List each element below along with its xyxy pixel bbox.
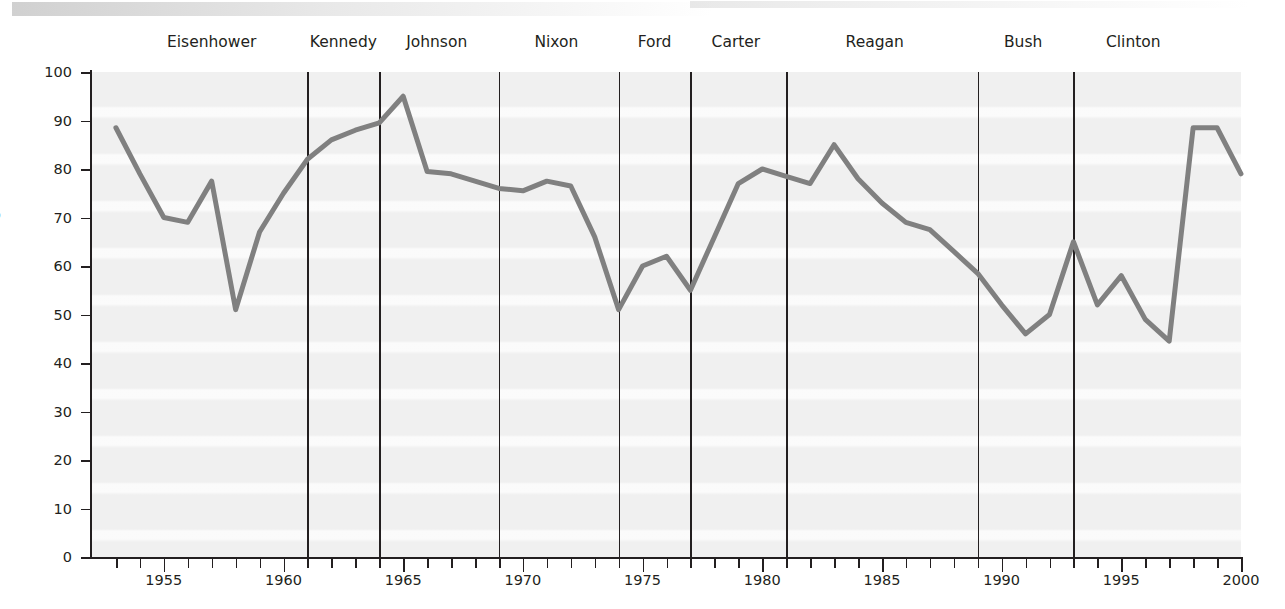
y-tick-0	[81, 557, 90, 559]
x-tick-1988	[954, 559, 956, 568]
chart-root: EisenhowerKennedyJohnsonNixonFordCarterR…	[0, 0, 1285, 609]
x-tick-1990	[1002, 559, 1004, 572]
y-tick-label-40: 40	[26, 355, 72, 371]
y-tick-label-70: 70	[26, 210, 72, 226]
x-tick-1963	[355, 559, 357, 568]
president-label-ford: Ford	[638, 33, 672, 51]
x-tick-1982	[810, 559, 812, 568]
x-tick-1995	[1121, 559, 1123, 572]
x-tick-1971	[547, 559, 549, 568]
x-tick-1989	[978, 559, 980, 568]
x-tick-1954	[140, 559, 142, 568]
x-tick-1973	[595, 559, 597, 568]
x-tick-1972	[571, 559, 573, 568]
x-tick-1968	[475, 559, 477, 568]
y-tick-label-10: 10	[26, 501, 72, 517]
x-tick-1984	[858, 559, 860, 568]
x-tick-1969	[499, 559, 501, 568]
x-tick-1964	[379, 559, 381, 568]
y-tick-80	[81, 169, 90, 171]
y-tick-label-20: 20	[26, 452, 72, 468]
x-tick-label-1955: 1955	[145, 572, 182, 588]
president-label-kennedy: Kennedy	[310, 33, 377, 51]
x-tick-1962	[331, 559, 333, 568]
y-tick-40	[81, 363, 90, 365]
y-tick-label-0: 0	[26, 549, 72, 565]
data-line-series	[92, 72, 1241, 557]
y-tick-60	[81, 266, 90, 268]
x-tick-label-1975: 1975	[624, 572, 661, 588]
x-tick-1999	[1217, 559, 1219, 568]
x-tick-1967	[451, 559, 453, 568]
x-tick-1970	[523, 559, 525, 572]
x-tick-label-1960: 1960	[265, 572, 302, 588]
scan-artifact-top-right	[690, 1, 1250, 8]
x-tick-1961	[307, 559, 309, 568]
x-tick-1978	[714, 559, 716, 568]
x-tick-label-1965: 1965	[385, 572, 422, 588]
president-label-johnson: Johnson	[406, 33, 467, 51]
x-tick-1979	[738, 559, 740, 568]
x-tick-label-1980: 1980	[744, 572, 781, 588]
x-tick-1983	[834, 559, 836, 568]
x-tick-1996	[1145, 559, 1147, 568]
x-tick-1960	[284, 559, 286, 572]
y-tick-10	[81, 509, 90, 511]
x-tick-1977	[690, 559, 692, 568]
x-tick-1953	[116, 559, 118, 568]
y-tick-30	[81, 412, 90, 414]
x-tick-1991	[1026, 559, 1028, 568]
president-label-eisenhower: Eisenhower	[167, 33, 256, 51]
x-tick-1992	[1050, 559, 1052, 568]
y-tick-label-30: 30	[26, 404, 72, 420]
y-tick-label-50: 50	[26, 307, 72, 323]
x-tick-1994	[1097, 559, 1099, 568]
x-tick-1998	[1193, 559, 1195, 568]
x-tick-1955	[164, 559, 166, 572]
y-tick-label-60: 60	[26, 258, 72, 274]
president-label-nixon: Nixon	[534, 33, 578, 51]
x-tick-1965	[403, 559, 405, 572]
x-tick-1985	[882, 559, 884, 572]
president-label-bush: Bush	[1004, 33, 1042, 51]
series-line-Percentage	[116, 96, 1241, 341]
x-tick-1974	[619, 559, 621, 568]
y-tick-label-100: 100	[26, 64, 72, 80]
x-tick-label-1995: 1995	[1103, 572, 1140, 588]
president-label-clinton: Clinton	[1106, 33, 1161, 51]
x-tick-1981	[786, 559, 788, 568]
x-tick-1957	[212, 559, 214, 568]
y-tick-100	[81, 72, 90, 74]
x-tick-2000	[1241, 559, 1243, 572]
x-tick-1959	[260, 559, 262, 568]
x-tick-label-1990: 1990	[983, 572, 1020, 588]
x-tick-1980	[762, 559, 764, 572]
x-tick-1966	[427, 559, 429, 568]
president-label-carter: Carter	[712, 33, 761, 51]
x-tick-label-1985: 1985	[863, 572, 900, 588]
y-tick-label-90: 90	[26, 113, 72, 129]
y-axis-line	[90, 70, 92, 559]
y-tick-90	[81, 121, 90, 123]
x-tick-1993	[1073, 559, 1075, 568]
scan-artifact-top	[12, 2, 712, 16]
y-tick-label-80: 80	[26, 161, 72, 177]
y-tick-20	[81, 460, 90, 462]
y-tick-50	[81, 315, 90, 317]
x-tick-1975	[643, 559, 645, 572]
y-axis-title: Percentage	[0, 201, 1, 285]
x-tick-1956	[188, 559, 190, 568]
y-tick-70	[81, 218, 90, 220]
x-tick-label-2000: 2000	[1223, 572, 1260, 588]
x-tick-1958	[236, 559, 238, 568]
plot-area	[92, 72, 1241, 557]
x-tick-1987	[930, 559, 932, 568]
x-tick-1976	[667, 559, 669, 568]
x-tick-label-1970: 1970	[504, 572, 541, 588]
president-label-reagan: Reagan	[846, 33, 904, 51]
x-tick-1997	[1169, 559, 1171, 568]
x-tick-1986	[906, 559, 908, 568]
